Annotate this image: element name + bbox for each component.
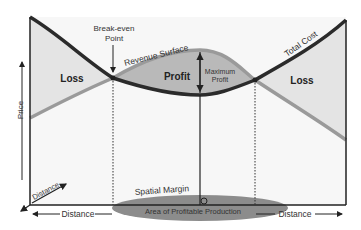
break-even-point-left (111, 76, 116, 81)
maximum-profit-label-line1: Maximum (205, 68, 236, 75)
break-even-label-line1: Break-even (94, 24, 135, 33)
maximum-profit-label-line2: Profit (212, 76, 228, 83)
distance-label-left: Distance (61, 209, 94, 219)
distance-diagonal-arrow-down (21, 205, 30, 211)
spatial-margin-diagram: Break-even Point Revenue Surface Total C… (0, 0, 361, 230)
break-even-label-line2: Point (105, 34, 124, 43)
price-axis-label: Price (16, 100, 25, 119)
profit-label: Profit (164, 71, 191, 82)
area-of-profitable-production-label: Area of Profitable Production (145, 207, 241, 216)
loss-label-left: Loss (60, 73, 84, 84)
loss-label-right: Loss (290, 75, 314, 86)
diagram-canvas: Break-even Point Revenue Surface Total C… (0, 0, 361, 230)
break-even-point-right (253, 78, 258, 83)
distance-label-right: Distance (278, 209, 311, 219)
